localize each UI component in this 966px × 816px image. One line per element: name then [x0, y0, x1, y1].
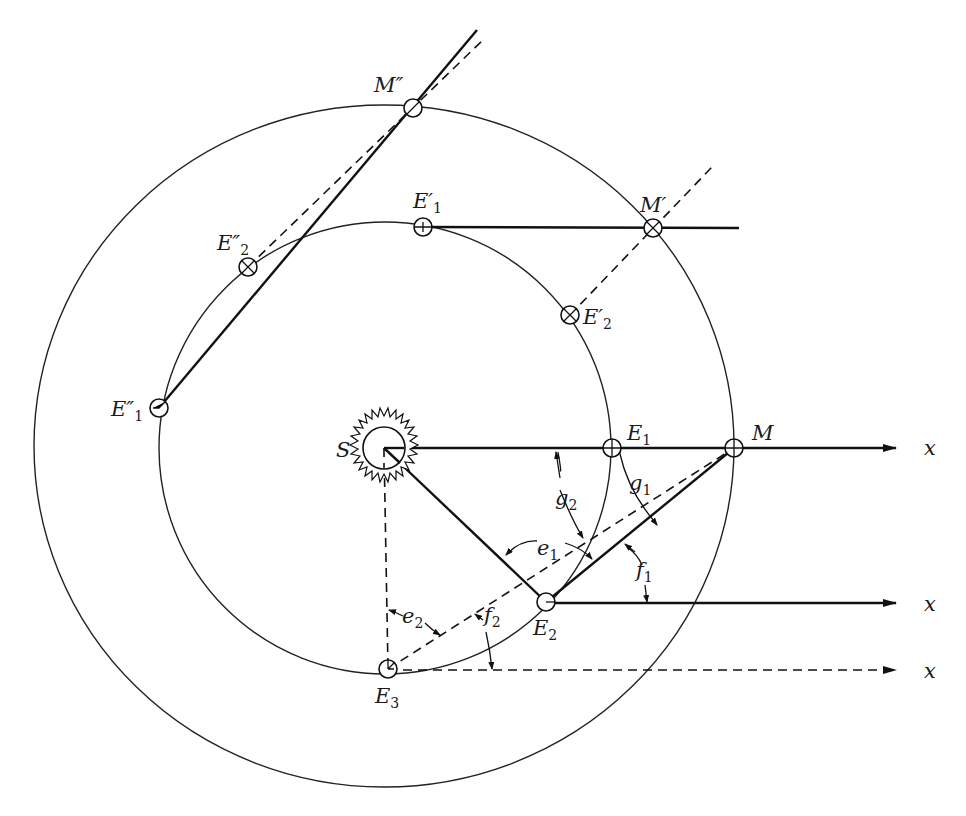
line-e1pp-mpp — [159, 30, 477, 408]
label-mp: M′ — [639, 193, 667, 217]
marker-e2p — [561, 306, 579, 324]
label-e2pp: E″2 — [216, 231, 249, 258]
marker-m — [725, 439, 743, 457]
line-e1p-mp — [423, 227, 739, 228]
angle-arc-f1-start — [625, 544, 635, 552]
label-sun: S — [336, 438, 350, 462]
line-e2p-mp — [570, 167, 712, 315]
angle-arc-e2 — [389, 610, 403, 616]
label-m: M — [751, 421, 774, 445]
marker-e1 — [603, 439, 621, 457]
marker-e2pp — [239, 258, 257, 276]
angle-arc-e2b — [425, 623, 440, 635]
label-angle-e2: e2 — [402, 604, 423, 631]
angle-arc-g2-top — [556, 452, 560, 478]
label-axis-x-1: x — [924, 436, 936, 460]
angle-arc-f1-end — [645, 585, 647, 602]
marker-e2 — [537, 593, 555, 611]
marker-e3 — [379, 660, 397, 678]
angle-arc-g1-end — [654, 521, 657, 525]
line-sun-e2 — [384, 448, 546, 602]
label-angle-e1: e1 — [537, 536, 558, 563]
label-angle-f2: f2 — [482, 603, 501, 630]
label-axis-x-2: x — [924, 592, 936, 616]
line-e3-m — [388, 448, 734, 669]
label-e2: E2 — [532, 616, 557, 643]
label-e3: E3 — [374, 684, 399, 711]
label-e1pp: E″1 — [110, 397, 143, 424]
marker-mp — [644, 219, 662, 237]
label-e1p: E′1 — [412, 189, 442, 216]
label-axis-x-3: x — [924, 659, 936, 683]
marker-e1pp — [150, 399, 168, 417]
marker-e1p — [414, 218, 432, 236]
marker-mpp — [404, 99, 422, 117]
orbit-diagram: S M M′ M″ E1 E2 E3 E′1 E′2 E″1 E″2 g1 g2… — [0, 0, 966, 816]
label-angle-f1: f1 — [634, 558, 653, 585]
angle-arc-f2-top — [475, 614, 483, 620]
label-angle-g2: g2 — [555, 486, 577, 513]
label-angle-g1: g1 — [629, 471, 651, 498]
label-mpp: M″ — [373, 73, 404, 97]
label-e2p: E′2 — [582, 305, 612, 332]
angle-arc-e1b — [565, 543, 592, 559]
label-e1: E1 — [626, 421, 651, 448]
angle-arc-e1 — [506, 541, 537, 555]
line-e2pp-mpp — [248, 38, 485, 267]
